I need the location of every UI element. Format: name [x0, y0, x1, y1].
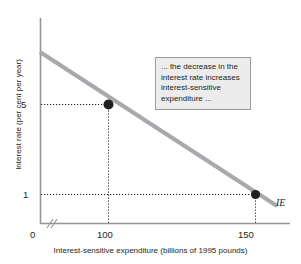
y-tick-label-1: 1: [23, 189, 28, 200]
data-point-marker: [104, 100, 114, 110]
guide-lines-point-1: [41, 105, 109, 224]
ie-curve-label: IE: [276, 197, 285, 208]
data-point-marker: [251, 190, 260, 199]
annotation-line: expenditure ...: [161, 94, 245, 105]
x-tick-label-100: 100: [97, 229, 113, 240]
x-tick-label-150: 150: [238, 229, 254, 240]
annotation-line: ... the decrease in the: [161, 62, 245, 73]
chart-figure: 5 1 0 100 150 Interest rate (per cent pe…: [0, 0, 301, 264]
annotation-line: interest rate increases: [161, 73, 245, 84]
chart-plot-area: [0, 0, 301, 264]
x-axis-label: Interest-sensitive expenditure (billions…: [0, 246, 301, 255]
annotation-line: interest-sensitive: [161, 83, 245, 94]
guide-lines-point-2: [41, 195, 256, 224]
x-tick-label-0: 0: [30, 229, 35, 240]
annotation-callout: ... the decrease in the interest rate in…: [155, 57, 251, 110]
y-axis-label: Interest rate (per cent per year): [14, 35, 23, 195]
